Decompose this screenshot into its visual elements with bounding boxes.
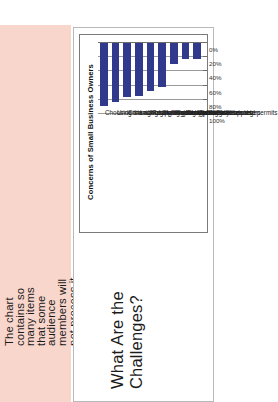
- category-label: Getting licenses and permits: [198, 109, 216, 116]
- presentation-slide: What Are the Challenges? Concerns of Sma…: [73, 27, 214, 402]
- axis-tick: [203, 85, 207, 86]
- bar: [193, 43, 200, 59]
- chart-plot-area: 0%20%40%60%80%100%Choosing the right sup…: [98, 42, 203, 114]
- axis-tick-label: 40%: [209, 74, 216, 81]
- axis-tick: [203, 99, 207, 100]
- chart-object[interactable]: Concerns of Small Business Owners 0%20%4…: [79, 34, 208, 233]
- axis-tick-label: 100%: [209, 117, 216, 124]
- axis-tick-label: 0%: [209, 46, 216, 53]
- bar: [135, 43, 142, 96]
- annotation-callout: The chart contains so many items that so…: [0, 25, 71, 402]
- bar: [123, 43, 130, 97]
- chart-title: Concerns of Small Business Owners: [86, 38, 95, 226]
- bar: [100, 43, 107, 106]
- axis-tick-label: 60%: [209, 89, 216, 96]
- bar: [158, 43, 165, 87]
- bar: [147, 43, 154, 91]
- axis-tick: [203, 70, 207, 71]
- bar: [112, 43, 119, 102]
- slide-title: What Are the Challenges?: [108, 239, 146, 389]
- slide-canvas: The chart contains so many items that so…: [0, 0, 216, 402]
- axis-tick-label: 20%: [209, 60, 216, 67]
- rotated-page: The chart contains so many items that so…: [0, 0, 216, 402]
- axis-tick: [203, 56, 207, 57]
- axis-tick: [203, 42, 207, 43]
- bar: [182, 43, 189, 59]
- annotation-text: The chart contains so many items that so…: [4, 30, 68, 346]
- bar: [170, 43, 177, 64]
